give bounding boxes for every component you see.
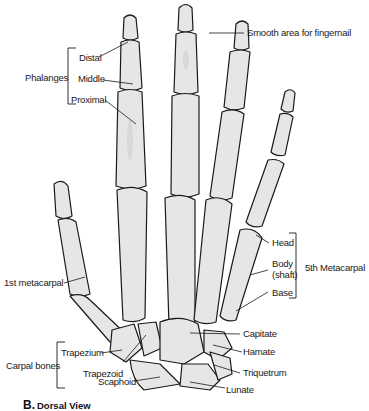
label-base: Base [272,287,293,298]
label-middle: Middle [78,73,105,84]
caption-letter: B. [23,398,35,411]
label-fifth-metacarpal: 5th Metacarpal [305,262,365,273]
caption-text: Dorsal View [37,400,91,411]
label-lunate: Lunate [226,384,254,395]
label-distal: Distal [79,52,102,63]
hand-bones-diagram: Phalanges Distal Middle Proximal Smooth … [0,0,369,411]
middle-finger-bones [165,5,199,328]
figure-caption: B.Dorsal View [23,395,91,411]
label-head: Head [272,237,294,248]
label-first-metacarpal: 1st metacarpal [4,277,64,288]
label-carpal-bones: Carpal bones [6,360,60,371]
label-triquetrum: Triquetrum [243,367,287,378]
label-scaphoid: Scaphoid [98,376,136,387]
label-trapezium: Trapezium [61,347,104,358]
label-hamate: Hamate [243,346,275,357]
label-proximal: Proximal [71,94,106,105]
index-finger-bones [116,15,147,322]
label-phalanges: Phalanges [25,72,68,83]
label-body: Body [272,258,293,269]
hand-skeleton-illustration [0,0,369,411]
label-capitate: Capitate [243,328,277,339]
label-fingernail-area: Smooth area for fingernail [247,27,351,38]
label-shaft: (shaft) [272,269,298,280]
